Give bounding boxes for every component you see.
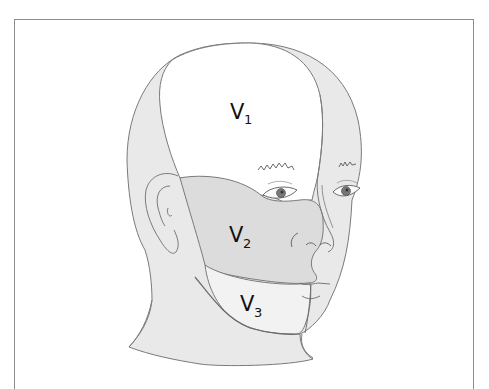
svg-text:V: V [230, 100, 245, 124]
svg-text:2: 2 [243, 236, 251, 251]
svg-text:3: 3 [254, 305, 262, 320]
svg-text:1: 1 [244, 112, 252, 127]
svg-text:V: V [240, 292, 255, 316]
svg-text:V: V [229, 223, 244, 247]
